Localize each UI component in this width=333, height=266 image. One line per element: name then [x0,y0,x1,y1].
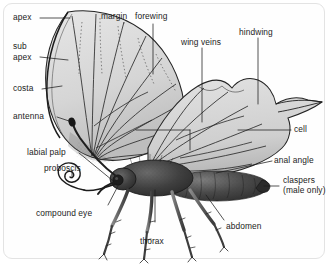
label-antenna: antenna [13,112,44,122]
butterfly-anatomy-figure: apex sub apex costa antenna labial palp … [0,0,333,266]
butterfly-illustration [0,0,333,266]
label-labial-palp: labial palp [27,148,66,158]
label-costa: costa [13,84,34,94]
label-claspers-note: (male only) [283,186,326,196]
label-cell: cell [294,125,307,135]
label-proboscis: proboscis [44,164,81,174]
label-sub: sub [13,42,27,52]
label-apex: apex [13,13,32,23]
label-sub-apex: apex [13,53,32,63]
label-forewing: forewing [135,12,167,22]
label-thorax: thorax [140,237,164,247]
label-hindwing: hindwing [239,28,273,38]
label-abdomen: abdomen [226,222,262,232]
label-anal-angle: anal angle [274,156,314,166]
compound-eye [113,175,123,185]
label-wing-veins: wing veins [181,38,221,48]
label-margin: margin [101,12,127,22]
label-compound-eye: compound eye [36,209,92,219]
